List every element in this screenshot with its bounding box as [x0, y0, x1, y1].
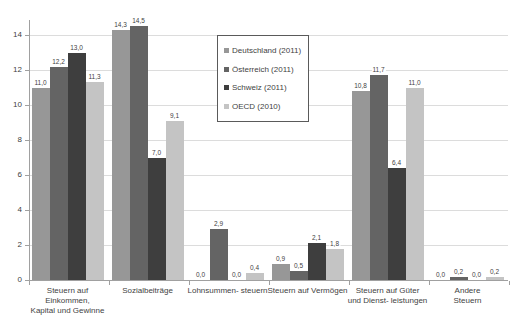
x-axis-tick [509, 281, 510, 285]
bar-value-label: 0,4 [249, 264, 260, 272]
x-axis-category-label: Steuern auf Güterund Dienst- leistungen [348, 286, 428, 306]
x-axis-tick [429, 281, 430, 285]
legend-marker-square-icon [224, 104, 229, 109]
bar-value-label: 13,0 [69, 44, 84, 52]
bar-sterreich-2011 [370, 75, 388, 280]
bar-value-label: 14,5 [131, 17, 146, 25]
bar-deutschland-2011 [352, 91, 370, 280]
bar-value-label: 0,5 [293, 262, 304, 270]
legend-item-schweiz-2011: Schweiz (2011) [224, 83, 302, 92]
bar-value-label: 0,0 [231, 271, 242, 279]
x-axis-category-label-line: und Dienst- leistungen [348, 296, 428, 306]
bar-oecd-2010 [166, 121, 184, 280]
y-axis-tick-label: 12 [0, 66, 22, 74]
x-axis-category-label: Lohnsummen- steuern [187, 286, 267, 296]
x-axis-tick [189, 281, 190, 285]
bar-schweiz-2011 [68, 53, 86, 281]
bar-value-label: 9,1 [169, 112, 180, 120]
y-axis-tick-label: 2 [0, 241, 22, 249]
x-axis-category-label-line: Steuern auf Vermögen [267, 286, 347, 296]
x-axis-category-label-line: Andere [453, 286, 481, 296]
legend-marker-square-icon [224, 48, 229, 53]
y-axis-tick-label: 0 [0, 276, 22, 284]
bar-value-label: 0,0 [435, 271, 446, 279]
bar-value-label: 6,4 [391, 159, 402, 167]
x-axis-category-label-line: Kapital und Gewinne [31, 306, 105, 316]
bar-schweiz-2011 [308, 243, 326, 280]
bar-value-label: 12,2 [51, 58, 66, 66]
legend-label: OECD (2010) [232, 102, 280, 111]
bar-sterreich-2011 [130, 26, 148, 280]
bar-schweiz-2011 [388, 168, 406, 280]
bar-deutschland-2011 [272, 264, 290, 280]
x-axis-category-label-line: Lohnsummen- steuern [187, 286, 267, 296]
bar-oecd-2010 [406, 88, 424, 281]
x-axis-category-label-line: Steuern auf Güter [348, 286, 428, 296]
x-axis-tick [269, 281, 270, 285]
legend-item-oecd-2010: OECD (2010) [224, 102, 302, 111]
bar-value-label: 1,8 [329, 240, 340, 248]
bar-value-label: 11,0 [33, 79, 47, 87]
x-axis-tick [29, 281, 30, 285]
bar-chart: Deutschland (2011)Österreich (2011)Schwe… [0, 0, 528, 326]
bar-value-label: 11,3 [87, 73, 101, 81]
x-axis-category-label: Steuern auf Vermögen [267, 286, 347, 296]
bar-value-label: 0,2 [453, 268, 464, 276]
x-axis-tick [109, 281, 110, 285]
bar-oecd-2010 [486, 277, 504, 281]
bar-value-label: 10,8 [353, 82, 368, 90]
bar-deutschland-2011 [32, 88, 50, 281]
bar-value-label: 0,0 [471, 271, 482, 279]
x-axis-tick [349, 281, 350, 285]
legend-item-deutschland-2011: Deutschland (2011) [224, 46, 302, 55]
bar-value-label: 0,9 [275, 255, 286, 263]
bar-value-label: 11,0 [407, 79, 421, 87]
y-axis-tick-label: 10 [0, 101, 22, 109]
y-axis-tick-label: 4 [0, 206, 22, 214]
bar-value-label: 11,7 [371, 66, 385, 74]
bar-value-label: 2,9 [213, 220, 224, 228]
legend-marker-square-icon [224, 85, 229, 90]
x-axis-category-label: Steuern aufEinkommen,Kapital und Gewinne [31, 286, 105, 316]
x-axis-category-label-line: Steuern [453, 296, 481, 306]
legend-marker-square-icon [224, 67, 229, 72]
legend: Deutschland (2011)Österreich (2011)Schwe… [217, 35, 309, 122]
x-axis-category-label: Sozialbeiträge [122, 286, 173, 296]
x-axis-category-label: AndereSteuern [453, 286, 481, 306]
bar-sterreich-2011 [210, 229, 228, 280]
bar-value-label: 2,1 [311, 234, 322, 242]
bar-sterreich-2011 [50, 67, 68, 281]
x-axis-category-label-line: Sozialbeiträge [122, 286, 173, 296]
legend-label: Schweiz (2011) [232, 83, 287, 92]
bar-deutschland-2011 [112, 30, 130, 280]
y-axis-tick-label: 14 [0, 31, 22, 39]
bar-sterreich-2011 [450, 277, 468, 281]
legend-label: Österreich (2011) [232, 65, 294, 74]
legend-item-sterreich-2011: Österreich (2011) [224, 65, 302, 74]
bar-value-label: 0,0 [195, 271, 206, 279]
x-axis-category-label-line: Steuern auf [31, 286, 105, 296]
bar-value-label: 0,2 [489, 268, 500, 276]
bar-oecd-2010 [326, 249, 344, 281]
bar-schweiz-2011 [148, 158, 166, 281]
x-axis-category-label-line: Einkommen, [31, 296, 105, 306]
bar-oecd-2010 [246, 273, 264, 280]
bar-oecd-2010 [86, 82, 104, 280]
y-axis-line [29, 20, 30, 280]
bar-value-label: 14,3 [113, 21, 128, 29]
bar-sterreich-2011 [290, 271, 308, 280]
y-axis-tick-label: 6 [0, 171, 22, 179]
bar-value-label: 7,0 [151, 149, 162, 157]
legend-label: Deutschland (2011) [232, 46, 301, 55]
y-axis-tick-label: 8 [0, 136, 22, 144]
